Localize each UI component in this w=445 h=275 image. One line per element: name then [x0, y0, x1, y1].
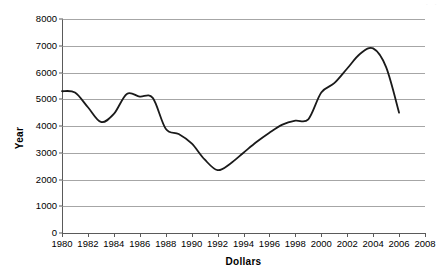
x-tick-label: 1984 [103, 239, 124, 249]
x-tick-label: 1998 [285, 239, 306, 249]
y-tick-label: 2000 [36, 175, 57, 185]
line-chart: · · Year 8000700060005000400030002000100… [0, 0, 445, 275]
x-tick-mark-2000 [321, 233, 322, 237]
x-tick-label: 1994 [233, 239, 254, 249]
y-tick-label: 3000 [36, 148, 57, 158]
y-tick-label: 7000 [36, 41, 57, 51]
x-tick-mark-2002 [347, 233, 348, 237]
x-tick-label: 1990 [181, 239, 202, 249]
x-tick-label: 1996 [259, 239, 280, 249]
y-tick-label: 1000 [36, 202, 57, 212]
x-tick-label: 2008 [414, 239, 435, 249]
x-tick-mark-1992 [218, 233, 219, 237]
y-tick-label: 8000 [36, 14, 57, 24]
x-tick-label: 1988 [155, 239, 176, 249]
x-tick-mark-1980 [62, 233, 63, 237]
x-tick-label: 1982 [77, 239, 98, 249]
series-line-1 [62, 48, 399, 170]
x-tick-label: 2004 [363, 239, 384, 249]
y-tick-label: 0 [52, 228, 57, 238]
data-series-layer [62, 19, 425, 233]
x-tick-mark-1994 [244, 233, 245, 237]
x-tick-mark-2006 [399, 233, 400, 237]
x-tick-mark-1986 [140, 233, 141, 237]
x-tick-mark-1990 [192, 233, 193, 237]
x-tick-mark-1982 [88, 233, 89, 237]
x-tick-mark-1988 [166, 233, 167, 237]
x-tick-label: 1992 [207, 239, 228, 249]
x-tick-mark-1998 [295, 233, 296, 237]
plot-area: 800070006000500040003000200010000 198019… [62, 19, 425, 233]
x-tick-label: 2006 [388, 239, 409, 249]
x-tick-mark-2004 [373, 233, 374, 237]
y-tick-label: 5000 [36, 95, 57, 105]
x-tick-label: 1986 [129, 239, 150, 249]
x-tick-mark-1984 [114, 233, 115, 237]
x-axis-title: Dollars [62, 256, 425, 267]
y-tick-label: 6000 [36, 68, 57, 78]
y-tick-label: 4000 [36, 121, 57, 131]
x-tick-label: 2000 [311, 239, 332, 249]
x-tick-mark-2008 [425, 233, 426, 237]
x-tick-label: 1980 [51, 239, 72, 249]
x-tick-label: 2002 [337, 239, 358, 249]
x-tick-mark-1996 [269, 233, 270, 237]
cut-off-text-artifact: · · [425, 0, 439, 9]
y-axis-title: Year [14, 126, 25, 148]
